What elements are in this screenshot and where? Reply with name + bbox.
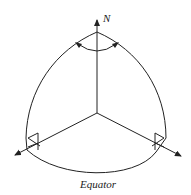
north-label: N <box>102 12 111 24</box>
equator-label: Equator <box>79 178 117 190</box>
angle-arrowhead-left-icon <box>75 42 82 48</box>
right-meridian-arc <box>97 32 166 138</box>
equator-arc <box>26 138 166 173</box>
right-axis <box>97 113 181 156</box>
angle-arrowhead-right-icon <box>112 42 119 48</box>
spherical-triangle-diagram: N Equator <box>0 0 191 195</box>
right-angle-marker-right <box>152 133 164 150</box>
left-meridian-arc <box>26 32 97 138</box>
